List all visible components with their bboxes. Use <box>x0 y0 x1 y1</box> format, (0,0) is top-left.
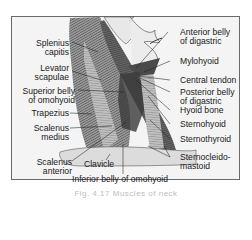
label-superior-belly-omohyoid: Superior belly of omohyoid <box>22 87 75 106</box>
label-inferior-belly-omohyoid: Inferior belly of omohyoid <box>72 175 168 184</box>
label-line: Mylohyoid <box>180 57 219 66</box>
label-line: Sternohyoid <box>180 120 226 129</box>
label-line: Clavicle <box>84 160 114 169</box>
label-line: medius <box>34 133 69 142</box>
label-line: Sternothyroid <box>180 135 231 144</box>
label-trapezius: Trapezius <box>32 109 69 118</box>
label-line: Inferior belly of omohyoid <box>72 175 168 184</box>
label-line: anterior <box>37 167 72 176</box>
label-posterior-belly-digastric: Posterior belly of digastric <box>180 88 234 107</box>
label-line: Hyoid bone <box>180 106 223 115</box>
label-scalenus-anterior: Scalenus anterior <box>37 158 72 177</box>
label-sternothyroid: Sternothyroid <box>180 135 231 144</box>
label-anterior-belly-digastric: Anterior belly of digastric <box>180 28 230 47</box>
label-levator-scapulae: Levator scapulae <box>35 64 69 83</box>
label-central-tendon: Central tendon <box>180 76 236 85</box>
label-line: Trapezius <box>32 109 69 118</box>
label-sternocleidomastoid: Sternocleido- mastoid <box>180 153 231 172</box>
label-hyoid-bone: Hyoid bone <box>180 106 223 115</box>
label-line: Central tendon <box>180 76 236 85</box>
label-clavicle: Clavicle <box>84 160 114 169</box>
label-line: capitis <box>36 48 69 57</box>
label-scalenus-medius: Scalenus medius <box>34 124 69 143</box>
label-line: scapulae <box>35 73 69 82</box>
label-line: of digastric <box>180 37 230 46</box>
label-line: mastoid <box>180 162 231 171</box>
label-line: of omohyoid <box>22 96 75 105</box>
label-mylohyoid: Mylohyoid <box>180 57 219 66</box>
figure-caption: Fig. 4.17 Muscles of neck <box>0 189 252 198</box>
label-splenius-capitis: Splenius capitis <box>36 39 69 58</box>
label-sternohyoid: Sternohyoid <box>180 120 226 129</box>
